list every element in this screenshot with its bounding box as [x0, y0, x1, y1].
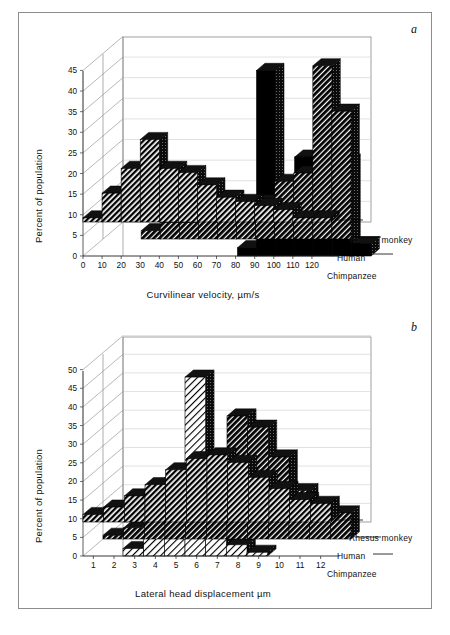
svg-text:2: 2: [112, 560, 117, 570]
svg-text:12: 12: [316, 560, 326, 570]
svg-text:40: 40: [68, 403, 78, 412]
svg-text:120: 120: [305, 260, 319, 270]
bar: [248, 477, 269, 522]
svg-text:25: 25: [68, 459, 78, 468]
svg-text:0: 0: [81, 260, 86, 270]
svg-text:60: 60: [193, 260, 203, 270]
panel-b-plot-area: 05101520253035404550123456789101112: [41, 321, 393, 586]
bar: [269, 488, 290, 522]
svg-text:20: 20: [68, 477, 78, 486]
figure-3d-histograms: a Percent of population 0510152025303540…: [0, 0, 450, 635]
panel-a: a Percent of population 0510152025303540…: [19, 13, 431, 313]
panel-b-legend-human: Human: [337, 551, 365, 561]
svg-text:0: 0: [72, 552, 77, 561]
bar: [140, 140, 159, 222]
svg-text:8: 8: [236, 560, 241, 570]
bar: [247, 552, 268, 556]
bar: [255, 206, 274, 222]
svg-text:9: 9: [256, 560, 261, 570]
svg-text:5: 5: [72, 533, 77, 542]
panel-a-legend-human: Human: [337, 253, 365, 263]
svg-text:70: 70: [212, 260, 222, 270]
bar: [102, 193, 121, 222]
bar: [217, 197, 236, 222]
svg-text:35: 35: [68, 108, 78, 117]
bar: [228, 462, 249, 522]
panel-a-legend-chimpanzee: Chimpanzee: [327, 271, 377, 281]
svg-text:10: 10: [68, 211, 78, 220]
bar: [145, 485, 166, 522]
svg-text:1: 1: [91, 560, 96, 570]
bar: [274, 210, 293, 222]
bar: [237, 248, 256, 256]
bar: [310, 503, 331, 522]
bar: [83, 218, 102, 222]
svg-text:90: 90: [250, 260, 260, 270]
bar: [160, 223, 179, 239]
svg-text:45: 45: [68, 384, 78, 393]
bar: [124, 496, 145, 522]
bar: [178, 173, 197, 222]
bar: [103, 535, 124, 539]
bar: [104, 507, 125, 522]
bar: [236, 201, 255, 222]
svg-text:40: 40: [155, 260, 165, 270]
svg-text:10: 10: [68, 515, 78, 524]
svg-text:10: 10: [97, 260, 107, 270]
bar: [293, 218, 312, 222]
bar: [159, 168, 178, 222]
panel-a-legend-rhesus-monkey: Rhesus monkey: [349, 235, 413, 245]
svg-text:10: 10: [275, 560, 285, 570]
svg-text:5: 5: [72, 231, 77, 240]
panel-a-x-axis-label: Curvilinear velocity, µm/s: [33, 289, 373, 300]
svg-text:35: 35: [68, 422, 78, 431]
panel-b-x-axis-label: Lateral head displacement µm: [33, 588, 373, 599]
bar: [312, 218, 331, 222]
svg-text:6: 6: [194, 560, 199, 570]
bar: [226, 545, 247, 556]
svg-text:40: 40: [68, 87, 78, 96]
svg-text:30: 30: [68, 440, 78, 449]
bar: [123, 549, 144, 556]
bar: [144, 520, 165, 539]
svg-text:20: 20: [68, 170, 78, 179]
svg-text:0: 0: [72, 252, 77, 261]
svg-text:3: 3: [132, 560, 137, 570]
svg-text:25: 25: [68, 149, 78, 158]
bar: [179, 223, 198, 239]
svg-text:30: 30: [136, 260, 146, 270]
bar: [166, 470, 187, 522]
chart-b: 05101520253035404550123456789101112: [41, 321, 393, 586]
panel-b: b Percent of population 0510152025303540…: [19, 311, 431, 608]
bar: [121, 168, 140, 222]
svg-text:20: 20: [116, 260, 126, 270]
svg-text:30: 30: [68, 128, 78, 137]
svg-text:15: 15: [68, 190, 78, 199]
panel-b-letter: b: [411, 320, 417, 335]
svg-text:15: 15: [68, 496, 78, 505]
panel-a-plot-area: 0510152025303540450102030405060708090100…: [41, 21, 393, 286]
bar: [141, 231, 160, 239]
svg-text:110: 110: [286, 260, 300, 270]
bar: [197, 185, 216, 222]
svg-text:11: 11: [296, 560, 305, 570]
svg-text:4: 4: [153, 560, 158, 570]
panel-b-legend-chimpanzee: Chimpanzee: [327, 569, 377, 579]
bar: [207, 455, 228, 522]
bar: [124, 528, 145, 539]
svg-text:5: 5: [174, 560, 179, 570]
bar: [290, 500, 311, 522]
svg-text:100: 100: [267, 260, 281, 270]
svg-text:80: 80: [231, 260, 241, 270]
bar: [186, 459, 207, 522]
panel-b-legend-rhesus-monkey: Rhesus monkey: [349, 533, 413, 543]
figure-frame: a Percent of population 0510152025303540…: [18, 12, 432, 609]
chart-a: 0510152025303540450102030405060708090100…: [41, 21, 393, 286]
svg-text:50: 50: [68, 366, 78, 375]
svg-text:7: 7: [215, 560, 220, 570]
bar: [83, 515, 104, 522]
bar: [144, 537, 165, 556]
panel-a-letter: a: [411, 22, 417, 37]
svg-text:50: 50: [174, 260, 184, 270]
svg-text:45: 45: [68, 66, 78, 75]
